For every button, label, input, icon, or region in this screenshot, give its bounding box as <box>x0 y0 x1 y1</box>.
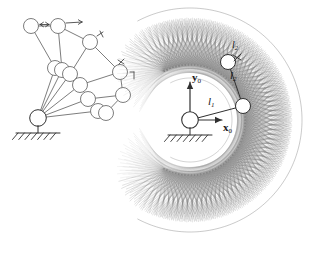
ground-hatch <box>196 135 202 142</box>
manipulator-configurations <box>13 19 135 140</box>
elbow-joint <box>81 92 96 107</box>
tip-joint <box>83 35 98 50</box>
ground-hatch <box>13 133 19 140</box>
y-axis-arrowhead <box>187 82 193 89</box>
figure-svg <box>0 0 319 261</box>
base-joint <box>182 112 199 129</box>
ground-symbol-right <box>165 135 213 142</box>
workspace-trace <box>139 71 164 111</box>
ground-hatch <box>19 133 25 140</box>
x-axis-arrowhead <box>215 117 222 123</box>
ground-hatch <box>50 133 56 140</box>
ground-hatch <box>190 135 196 142</box>
tip-joint <box>113 65 128 80</box>
ground-hatch <box>171 135 177 142</box>
angle-arrow <box>66 22 82 23</box>
figure-canvas: y0 x0 l1 l2 l2 <box>0 0 319 261</box>
workspace-trace <box>134 136 167 170</box>
wrist-joint <box>221 55 236 70</box>
tip-joint <box>24 19 39 34</box>
ground-hatch <box>44 133 50 140</box>
ground-hatch <box>25 133 31 140</box>
elbow-joint <box>73 78 88 93</box>
elbow-joint <box>236 99 251 114</box>
ground-hatch <box>177 135 183 142</box>
tip-joint <box>99 106 114 121</box>
ground-hatch <box>165 135 171 142</box>
tip-joint <box>116 88 131 103</box>
ground-hatch <box>38 133 44 140</box>
ground-symbol-left <box>13 133 61 140</box>
base-joint <box>30 110 47 127</box>
tip-joint <box>51 19 66 34</box>
ground-hatch <box>202 135 208 142</box>
angle-arrowhead <box>78 20 82 22</box>
ground-hatch <box>31 133 37 140</box>
ground-hatch <box>183 135 189 142</box>
